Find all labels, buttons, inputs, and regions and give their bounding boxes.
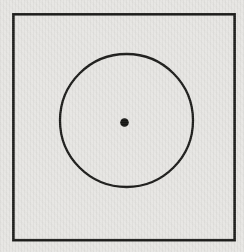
geometry-figure bbox=[0, 0, 244, 252]
figure-canvas bbox=[0, 0, 244, 252]
paper-background bbox=[0, 0, 244, 252]
center-dot bbox=[120, 118, 129, 127]
